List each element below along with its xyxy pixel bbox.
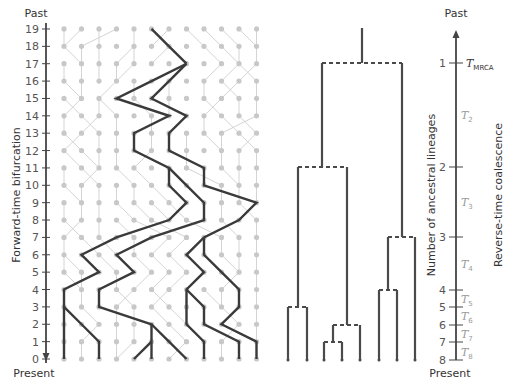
individual-dot — [254, 44, 259, 49]
parent-offspring-link — [187, 220, 222, 237]
left-axis-tick-label: 3 — [32, 301, 39, 314]
tree-leaf — [341, 359, 344, 362]
individual-dot — [96, 26, 101, 31]
left-axis-past-label: Past — [25, 7, 49, 20]
individual-dot — [79, 26, 84, 31]
individual-dot — [236, 61, 241, 66]
parent-offspring-link — [169, 307, 187, 324]
individual-dot — [254, 322, 259, 327]
left-axis-tick-label: 0 — [32, 353, 39, 366]
individual-dot — [166, 26, 171, 31]
parent-offspring-link — [169, 237, 187, 254]
left-axis-tick-label: 19 — [25, 23, 39, 36]
individual-dot — [236, 148, 241, 153]
individual-dot — [149, 44, 154, 49]
coalescence-interval-label: T3 — [461, 196, 473, 211]
individual-dot — [114, 356, 119, 361]
ancestral-lineage-path — [204, 237, 257, 359]
individual-dot — [236, 131, 241, 136]
individual-dot — [166, 235, 171, 240]
individual-dot — [131, 183, 136, 188]
right-axis-reverse-time: Past Present Number of ancestral lineage… — [425, 7, 505, 380]
individual-dot — [219, 183, 224, 188]
left-axis-tick-label: 11 — [25, 162, 39, 175]
individual-dot — [131, 287, 136, 292]
individual-dot — [131, 200, 136, 205]
parent-offspring-link — [204, 29, 222, 46]
individual-dot — [96, 183, 101, 188]
individual-dot — [79, 270, 84, 275]
individual-dot — [254, 252, 259, 257]
individual-dot — [149, 200, 154, 205]
individual-dot — [96, 44, 101, 49]
individual-dot — [166, 270, 171, 275]
individual-dot — [254, 165, 259, 170]
individual-dot — [114, 148, 119, 153]
individual-dot — [254, 26, 259, 31]
individual-dot — [96, 113, 101, 118]
coalescence-interval-labels: TMRCAT2T3T4T5T6T7T8 — [461, 57, 494, 361]
ancestral-lineage-path — [152, 324, 187, 359]
individual-dot — [254, 96, 259, 101]
individual-dot — [184, 165, 189, 170]
parent-offspring-link — [222, 46, 240, 63]
parent-offspring-link — [204, 290, 222, 307]
individual-dot — [96, 78, 101, 83]
parent-offspring-link — [64, 29, 82, 46]
individual-dot — [184, 235, 189, 240]
left-axis-tick-label: 7 — [32, 231, 39, 244]
coalescence-interval-label: T6 — [461, 310, 473, 325]
individual-dot — [61, 96, 66, 101]
individual-dot — [201, 44, 206, 49]
coalescence-interval-label: T5 — [461, 293, 473, 308]
left-axis-tick-label: 1 — [32, 336, 39, 349]
parent-offspring-link — [187, 29, 205, 46]
individual-dot — [61, 113, 66, 118]
individual-dot — [114, 61, 119, 66]
parent-offspring-link — [134, 168, 152, 185]
individual-dot — [79, 44, 84, 49]
individual-dot — [219, 148, 224, 153]
individual-dot — [219, 200, 224, 205]
coalescent-figure: Past Present Forward-time bifurcation 01… — [0, 0, 516, 388]
left-axis-tick-label: 5 — [32, 266, 39, 279]
individual-dot — [201, 113, 206, 118]
individual-dot — [184, 96, 189, 101]
parent-offspring-link — [169, 272, 187, 289]
parent-offspring-link — [82, 151, 100, 168]
individual-dot — [61, 26, 66, 31]
parent-offspring-link — [152, 272, 170, 289]
individual-dot — [79, 339, 84, 344]
individual-dot — [96, 148, 101, 153]
tree-leaf — [414, 359, 417, 362]
individual-dot — [96, 131, 101, 136]
individual-dot — [114, 113, 119, 118]
lineage-count-label: 6 — [439, 319, 446, 332]
parent-offspring-link — [64, 46, 82, 63]
parent-offspring-link — [117, 203, 135, 220]
individual-dot — [61, 200, 66, 205]
ancestral-lineage-path — [99, 168, 204, 359]
parent-offspring-link — [204, 64, 222, 81]
coalescence-interval-label: T7 — [461, 328, 473, 343]
parent-offspring-link — [169, 255, 187, 272]
individual-dot — [114, 217, 119, 222]
individual-dot — [236, 270, 241, 275]
parent-offspring-link — [99, 81, 117, 98]
individual-dot — [254, 235, 259, 240]
individual-dot — [79, 131, 84, 136]
left-axis-tick-label: 13 — [25, 127, 39, 140]
individual-dot — [96, 61, 101, 66]
parent-offspring-link — [152, 255, 170, 272]
individual-dot — [114, 304, 119, 309]
individual-dot — [184, 78, 189, 83]
individual-dot — [114, 339, 119, 344]
individual-dot — [219, 287, 224, 292]
individual-dot — [79, 113, 84, 118]
individual-dot — [114, 287, 119, 292]
left-axis-tick-label: 18 — [25, 40, 39, 53]
individual-dot — [236, 322, 241, 327]
individual-dot — [236, 235, 241, 240]
coalescence-interval-label: T4 — [461, 258, 473, 273]
lineage-count-label: 1 — [439, 57, 446, 70]
